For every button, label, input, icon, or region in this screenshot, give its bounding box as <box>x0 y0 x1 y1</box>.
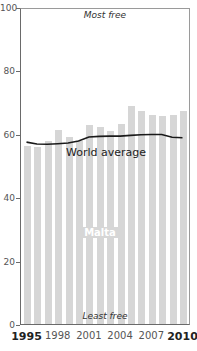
world-average-line <box>0 0 197 351</box>
